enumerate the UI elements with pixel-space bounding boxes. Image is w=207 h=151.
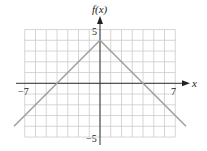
y-axis-label: f(x) [92, 3, 108, 16]
y-max-tick-label: 5 [92, 26, 97, 37]
x-min-tick-label: −7 [18, 86, 29, 97]
y-axis-arrow-icon [97, 16, 103, 24]
x-axis-arrow-icon [182, 80, 190, 86]
function-graph: f(x) x −7 7 5 −5 [0, 0, 207, 151]
x-axis-label: x [191, 77, 197, 89]
x-max-tick-label: 7 [171, 86, 176, 97]
y-min-tick-label: −5 [86, 133, 97, 144]
